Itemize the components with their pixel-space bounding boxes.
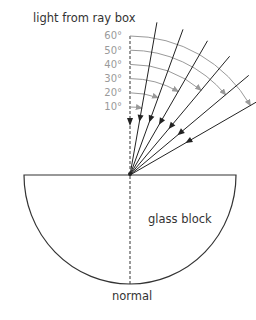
angle-label-10: 10° [92,102,122,112]
normal-arrowhead-icon [127,118,133,126]
glass-block-label: glass block [148,214,212,226]
normal-label: normal [112,291,152,303]
angle-label-20: 20° [92,88,122,98]
angle-arc-10 [130,107,142,108]
ray-60 [130,98,256,176]
angle-arc-50 [130,50,226,95]
ray-arrowhead-icon [159,117,165,125]
ray-arrowhead-icon [138,114,144,121]
point-of-incidence [128,172,132,176]
angle-label-30: 30° [92,74,122,84]
angle-label-50: 50° [92,46,122,56]
angle-label-60: 60° [92,31,122,41]
ray-box-label: light from ray box [33,13,136,25]
ray-arrowhead-icon [185,137,193,143]
angle-arc-30 [130,79,178,92]
ray-arrowhead-icon [149,115,155,123]
incident-rays [130,22,256,175]
refraction-diagram [0,0,256,320]
angle-label-40: 40° [92,60,122,70]
ray-40 [130,56,230,175]
